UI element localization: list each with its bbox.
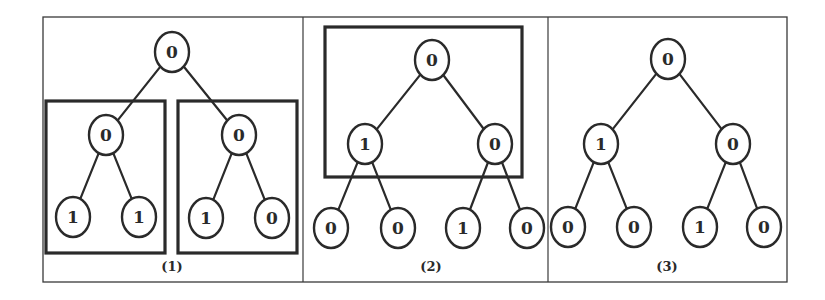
tree-edge (118, 67, 161, 121)
node-value: 1 (595, 134, 607, 154)
tree-edge (377, 75, 421, 130)
node-value: 0 (758, 217, 770, 237)
node-value: 0 (266, 208, 278, 228)
panel-label: (3) (656, 259, 677, 274)
tree-edge (338, 162, 357, 210)
node-value: 0 (489, 134, 501, 154)
node-value: 0 (662, 49, 674, 69)
node-value: 0 (100, 125, 112, 145)
tree-node: 1 (189, 198, 223, 238)
tree-node: 0 (510, 208, 544, 248)
node-value: 0 (727, 134, 739, 154)
node-value: 0 (325, 218, 337, 238)
node-value: 0 (166, 42, 178, 62)
panel-label: (1) (161, 259, 182, 274)
tree-node: 0 (155, 32, 189, 72)
binary-tree-figure: 0001110(1)0100010(2)0100010(3) (0, 0, 825, 300)
tree-node: 0 (415, 40, 449, 80)
tree-node: 1 (56, 197, 90, 237)
tree-node: 1 (348, 124, 382, 164)
tree-node: 0 (314, 208, 348, 248)
tree-node: 1 (122, 197, 156, 237)
tree-edge (575, 162, 594, 209)
tree-node: 0 (551, 207, 585, 247)
tree-node: 0 (381, 208, 415, 248)
tree-edge (372, 162, 391, 210)
tree-edge (246, 153, 265, 200)
tree-edge (707, 162, 726, 209)
tree-edge (679, 74, 721, 129)
tree-node: 1 (683, 207, 717, 247)
node-value: 1 (200, 208, 212, 228)
tree-edge (113, 153, 131, 199)
node-value: 1 (67, 207, 79, 227)
panel-3: 0100010(3) (551, 39, 781, 274)
tree-edge (470, 162, 488, 209)
tree-node: 0 (617, 207, 651, 247)
node-value: 0 (562, 217, 574, 237)
panel-label: (2) (420, 259, 441, 274)
panel-1: 0001110(1) (46, 32, 297, 274)
tree-edge (740, 162, 757, 208)
panels: 0001110(1)0100010(2)0100010(3) (46, 27, 781, 274)
node-value: 0 (628, 217, 640, 237)
tree-node: 1 (584, 124, 618, 164)
tree-node: 0 (716, 124, 750, 164)
node-value: 0 (233, 125, 245, 145)
tree-edge (608, 162, 627, 209)
tree-node: 0 (651, 39, 685, 79)
tree-node: 0 (478, 124, 512, 164)
tree-edge (213, 153, 232, 200)
node-value: 0 (426, 50, 438, 70)
panel-2: 0100010(2) (314, 27, 544, 274)
tree-node: 0 (222, 115, 256, 155)
tree-node: 0 (89, 115, 123, 155)
node-value: 1 (133, 207, 145, 227)
node-value: 1 (359, 134, 371, 154)
node-value: 0 (392, 218, 404, 238)
node-value: 0 (521, 218, 533, 238)
node-value: 1 (694, 217, 706, 237)
tree-edge (184, 67, 228, 121)
tree-edge (80, 153, 98, 199)
node-value: 1 (457, 218, 469, 238)
tree-edge (443, 75, 484, 129)
tree-node: 1 (446, 208, 480, 248)
tree-edge (613, 74, 657, 130)
tree-diagram-canvas: 0001110(1)0100010(2)0100010(3) (0, 0, 825, 300)
tree-node: 0 (255, 198, 289, 238)
tree-edge (502, 162, 520, 209)
tree-node: 0 (747, 207, 781, 247)
